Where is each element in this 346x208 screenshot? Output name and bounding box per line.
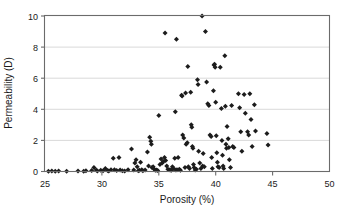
data-point bbox=[211, 88, 216, 93]
data-point bbox=[218, 65, 223, 70]
data-point bbox=[253, 129, 258, 134]
data-point bbox=[163, 31, 168, 36]
data-point bbox=[147, 135, 152, 140]
data-point bbox=[196, 149, 201, 154]
data-point bbox=[213, 100, 218, 105]
data-point bbox=[116, 155, 121, 160]
data-point bbox=[250, 144, 255, 149]
data-point bbox=[188, 90, 193, 95]
x-axis-ticks-group: 253035404550 bbox=[40, 172, 335, 189]
data-point bbox=[203, 29, 208, 34]
x-tick-label: 30 bbox=[97, 179, 107, 189]
y-tick-label: 10 bbox=[28, 12, 38, 22]
data-point bbox=[247, 91, 252, 96]
data-point bbox=[111, 156, 116, 161]
data-point bbox=[252, 102, 257, 107]
data-point bbox=[129, 146, 134, 151]
data-point bbox=[174, 37, 179, 42]
y-axis-title: Permeability (D) bbox=[3, 57, 14, 129]
y-tick-label: 8 bbox=[33, 43, 38, 53]
chart-canvas: 0246810 253035404550 Porosity (%) Permea… bbox=[0, 0, 346, 208]
data-point bbox=[176, 155, 181, 160]
data-point bbox=[56, 168, 61, 173]
data-point bbox=[228, 165, 233, 170]
data-points-group bbox=[46, 14, 271, 174]
x-tick-label: 40 bbox=[211, 179, 221, 189]
data-point bbox=[242, 92, 247, 97]
data-point bbox=[204, 80, 209, 85]
data-point bbox=[201, 151, 206, 156]
x-tick-label: 50 bbox=[324, 179, 334, 189]
data-point bbox=[219, 138, 224, 143]
y-axis-ticks-group: 0246810 bbox=[28, 12, 45, 178]
data-point bbox=[227, 157, 232, 162]
data-point bbox=[183, 90, 188, 95]
data-point bbox=[215, 160, 220, 165]
data-point bbox=[243, 111, 248, 116]
data-point bbox=[236, 91, 241, 96]
data-point bbox=[214, 150, 219, 155]
data-point bbox=[156, 113, 161, 118]
x-tick-label: 25 bbox=[40, 179, 50, 189]
data-point bbox=[149, 142, 154, 147]
data-point bbox=[222, 53, 227, 58]
data-point bbox=[223, 104, 228, 109]
data-point bbox=[229, 103, 234, 108]
data-point bbox=[264, 131, 269, 136]
x-tick-label: 35 bbox=[154, 179, 164, 189]
data-point bbox=[248, 117, 253, 122]
data-point bbox=[225, 124, 230, 129]
data-point bbox=[220, 153, 225, 158]
data-point bbox=[238, 129, 243, 134]
data-point bbox=[196, 82, 201, 87]
data-point bbox=[214, 133, 219, 138]
y-tick-label: 0 bbox=[33, 167, 38, 177]
data-point bbox=[173, 109, 178, 114]
data-point bbox=[209, 155, 214, 160]
data-point bbox=[145, 150, 150, 155]
x-tick-label: 45 bbox=[268, 179, 278, 189]
data-point bbox=[239, 149, 244, 154]
y-tick-label: 6 bbox=[33, 74, 38, 84]
data-point bbox=[266, 143, 271, 148]
y-tick-label: 4 bbox=[33, 105, 38, 115]
data-point bbox=[210, 166, 215, 171]
data-point bbox=[185, 64, 190, 69]
data-point bbox=[138, 160, 143, 165]
y-tick-label: 2 bbox=[33, 136, 38, 146]
scatter-chart-figure: 0246810 253035404550 Porosity (%) Permea… bbox=[0, 0, 346, 208]
x-axis-title: Porosity (%) bbox=[160, 194, 214, 205]
data-point bbox=[219, 106, 224, 111]
